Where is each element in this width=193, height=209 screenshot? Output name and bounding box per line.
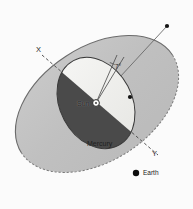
earth-marker <box>133 170 139 176</box>
earth-label: Earth <box>143 170 159 177</box>
diagram-canvas <box>0 0 193 209</box>
mercury-label: Mercury <box>87 140 112 147</box>
sun-marker <box>93 100 100 107</box>
node-label-y: Y <box>152 150 157 158</box>
inclination-angle-label: 7° <box>115 64 121 71</box>
orbit-point-marker <box>128 95 132 99</box>
mercury-orbit-diagram: X Y 7° Sun Mercury Earth <box>0 0 193 209</box>
node-label-x: X <box>36 46 41 54</box>
sun-label: Sun <box>77 100 89 107</box>
